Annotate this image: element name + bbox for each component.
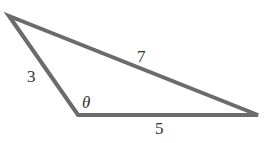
label-angle-theta: θ xyxy=(82,94,90,111)
triangle-shape xyxy=(9,16,258,115)
label-side-5: 5 xyxy=(155,120,164,137)
label-side-3: 3 xyxy=(27,68,36,85)
triangle-diagram xyxy=(0,0,276,143)
label-side-7: 7 xyxy=(137,48,146,65)
